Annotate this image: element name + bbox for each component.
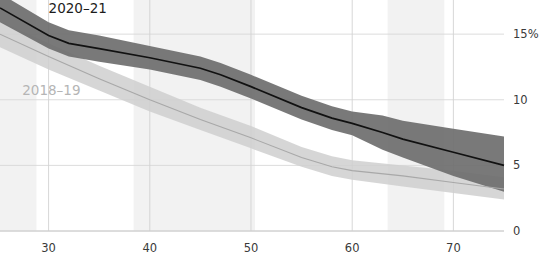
shaded-x-band [388, 0, 445, 231]
y-tick-10: 10 [513, 93, 528, 107]
chart-container: 3040506070 15%1050 2020–21 2018–19 [0, 0, 544, 259]
x-tick-30: 30 [41, 241, 56, 255]
y-tick-15%: 15% [513, 27, 539, 41]
series-label-2020-21: 2020–21 [49, 0, 107, 16]
x-tick-60: 60 [345, 241, 360, 255]
line-chart: 3040506070 15%1050 2020–21 2018–19 [0, 0, 544, 259]
x-tick-50: 50 [244, 241, 259, 255]
y-tick-5: 5 [513, 158, 520, 172]
series-label-2018-19: 2018–19 [22, 82, 80, 98]
y-tick-0: 0 [513, 224, 520, 238]
x-tick-40: 40 [142, 241, 157, 255]
x-tick-70: 70 [446, 241, 461, 255]
